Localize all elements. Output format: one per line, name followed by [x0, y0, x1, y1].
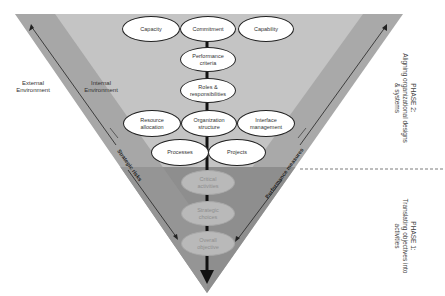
phase2-title: PHASE 2: [409, 53, 417, 143]
phase1-label: PHASE 1: Translating objectives into act… [393, 191, 417, 281]
internal-environment-label: Internal Environment [76, 80, 126, 94]
ellipse-processes: Processes [151, 139, 209, 166]
ellipse-interface-management: Interface management [237, 110, 295, 137]
phase2-description: Aligning organizational designs & system… [393, 53, 409, 143]
ellipse-critical-activities: Critical activities [181, 170, 235, 195]
ellipse-capacity: Capacity [122, 16, 180, 42]
ellipse-performance-criteria: Performance criteria [180, 47, 236, 72]
phase1-title: PHASE 1: [409, 191, 417, 281]
ellipse-overall-objective: Overall objective [181, 231, 235, 256]
external-environment-label: External Environment [8, 80, 58, 94]
phase2-label: PHASE 2: Aligning organizational designs… [393, 53, 417, 143]
ellipse-capability: Capability [238, 16, 294, 42]
phase1-description: Translating objectives into activities [393, 191, 409, 281]
ellipse-organization-structure: Organization structure [181, 110, 237, 137]
ellipse-resource-allocation: Resource allocation [123, 110, 181, 137]
ellipse-roles-responsibilities: Roles & responsibilities [180, 78, 236, 103]
ellipse-strategic-choices: Strategic choices [181, 201, 235, 226]
ellipse-commitment: Commitment [180, 16, 236, 42]
ellipse-projects: Projects [208, 139, 266, 166]
